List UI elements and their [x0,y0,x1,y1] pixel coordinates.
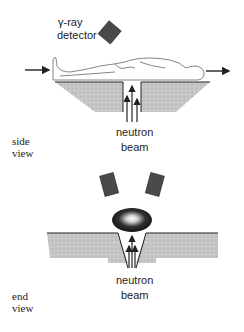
gamma-detector-icon [98,21,121,44]
gamma-detector-left-icon [100,173,119,197]
beam-label-line1: neutron [116,126,153,138]
beam-label-line2: beam [121,141,149,153]
neutron-beam-arrows-icon [127,86,137,122]
end-view-label-line1: end [12,290,28,302]
patient-body-icon [53,57,204,80]
shield-right [141,82,210,112]
neutron-activation-diagram: γ-ray detector neutron beam side [0,0,244,332]
side-view-label-line1: side [12,135,30,147]
side-view-label-line2: view [12,147,33,159]
end-neutron-beam-arrows-icon [129,236,135,268]
detector-label-line2: detector [57,29,97,41]
end-view: neutron beam end view [12,173,218,314]
gamma-detector-right-icon [145,173,164,197]
end-beam-label-line2: beam [121,289,149,301]
end-beam-label-line1: neutron [116,274,153,286]
side-view: γ-ray detector neutron beam side [12,16,229,159]
detector-label-line1: γ-ray [58,16,83,28]
end-shield-left [47,233,128,263]
end-view-label-line2: view [12,302,33,314]
end-shield-right [136,233,218,263]
shield-left [55,82,123,112]
patient-cross-section-icon [112,208,152,232]
